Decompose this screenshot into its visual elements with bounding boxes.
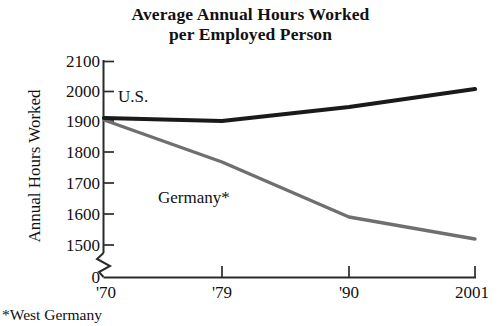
y-tick-label-1900: 1900: [38, 113, 100, 130]
x-tick-marks: [222, 266, 475, 278]
y-tick-label-1700: 1700: [38, 175, 100, 192]
y-tick-label-1500: 1500: [38, 237, 100, 254]
y-tick-label-2000: 2000: [38, 83, 100, 100]
footnote-west-germany: *West Germany: [2, 307, 102, 323]
y-tick-label-2100: 2100: [38, 53, 100, 70]
y-tick-marks: [104, 62, 115, 246]
x-tick-label-2001: 2001: [447, 284, 497, 301]
chart-figure: Average Annual Hours Worked per Employed…: [0, 0, 501, 326]
x-tick-label-90: '90: [329, 284, 369, 301]
series-line-us: [104, 89, 475, 121]
y-tick-label-1600: 1600: [38, 206, 100, 223]
series-label-us: U.S.: [118, 88, 148, 105]
x-tick-label-70: '70: [86, 284, 126, 301]
series-line-germany: [104, 120, 475, 239]
series-label-germany: Germany*: [158, 189, 230, 206]
plot-area: 2100 2000 1900 1800 1700 1600 1500 0 '70…: [0, 0, 501, 326]
x-tick-label-79: '79: [202, 284, 242, 301]
y-tick-label-1800: 1800: [38, 144, 100, 161]
